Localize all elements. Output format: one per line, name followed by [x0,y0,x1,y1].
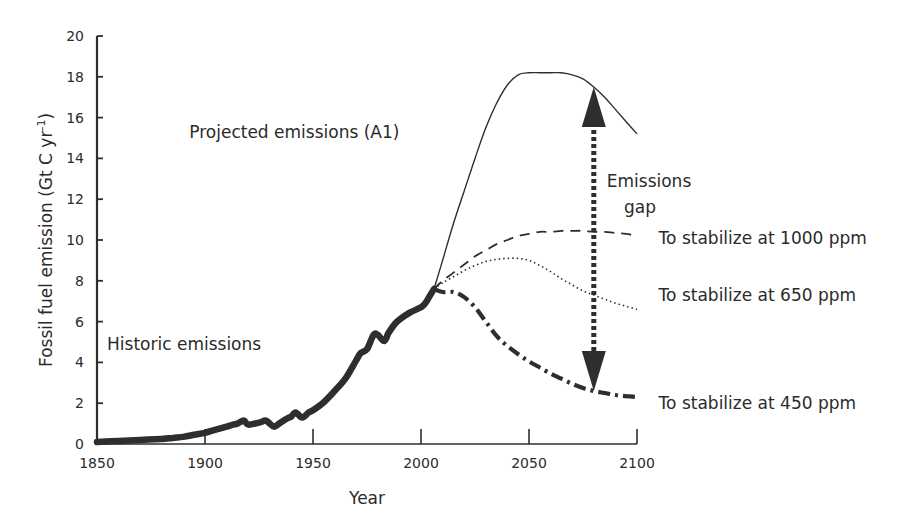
y-tick-label: 14 [66,150,84,166]
y-axis-label-sup: -1 [35,120,48,131]
y-tick-label: 4 [75,354,84,370]
series-to-stabilize-at-1000-ppm [434,231,637,289]
annotation-label: Emissions [607,171,692,191]
y-tick-label: 12 [66,191,84,207]
emissions-chart: 0246810121416182018501900195020002050210… [0,0,917,527]
y-tick-label: 18 [66,69,84,85]
y-axis-label-main: Fossil fuel emission (Gt C yr [36,131,56,367]
series-historic-emissions [97,289,434,442]
x-tick-label: 1850 [79,455,115,471]
y-axis-label: Fossil fuel emission (Gt C yr-1) [35,113,56,367]
x-tick-label: 1950 [295,455,331,471]
x-axis-label: Year [348,488,385,508]
axes: 0246810121416182018501900195020002050210… [66,28,655,471]
annotation-label: To stabilize at 650 ppm [658,285,856,305]
y-tick-label: 2 [75,395,84,411]
annotation-label: Historic emissions [107,334,261,354]
y-tick-label: 16 [66,110,84,126]
y-tick-label: 8 [75,273,84,289]
x-tick-label: 1900 [187,455,223,471]
annotation-label: To stabilize at 1000 ppm [658,228,867,248]
y-tick-label: 20 [66,28,84,44]
annotation-label: gap [624,197,656,217]
y-tick-label: 6 [75,314,84,330]
x-tick-label: 2100 [619,455,655,471]
arrow-up-icon [582,87,606,127]
chart-canvas: 0246810121416182018501900195020002050210… [0,0,917,527]
series-to-stabilize-at-650-ppm [434,258,637,309]
series-to-stabilize-at-450-ppm [434,289,637,397]
x-tick-label: 2000 [403,455,439,471]
x-tick-label: 2050 [511,455,547,471]
arrow-down-icon [582,351,606,391]
y-axis-label-suffix: ) [36,113,56,120]
annotation-label: Projected emissions (A1) [189,122,399,142]
annotation-label: To stabilize at 450 ppm [658,393,856,413]
y-tick-label: 0 [75,436,84,452]
y-tick-label: 10 [66,232,84,248]
annotation-layer: Projected emissions (A1)Historic emissio… [107,122,867,413]
emissions-gap-arrow [582,87,606,391]
